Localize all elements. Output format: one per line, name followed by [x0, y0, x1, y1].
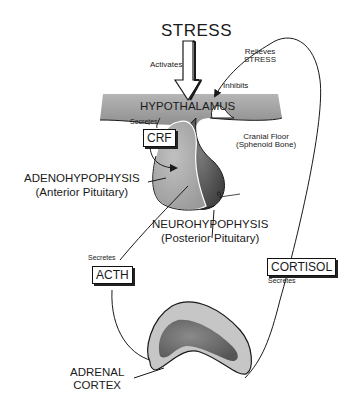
crf-box: CRF [143, 129, 176, 147]
adeno-line2: (Anterior Pituitary) [24, 187, 140, 199]
stress-arrow-icon [175, 41, 201, 100]
cortisol-box: CORTISOL [267, 258, 336, 276]
activates-label: Activates [150, 61, 182, 69]
acth-box: ACTH [92, 266, 133, 284]
secretes-crf-label: Secretes [130, 118, 158, 125]
neurohypophysis-label: NEUROHYPOPHYSIS (Posterior Pituitary) [152, 219, 268, 244]
secretes-cortisol-label: Secretes [268, 277, 296, 284]
cranial-floor-label: Cranial Floor (Sphenoid Bone) [236, 133, 296, 149]
adrenal-cortex-label: ADRENAL CORTEX [70, 367, 124, 391]
relieves-line2: STRESS [244, 56, 276, 64]
cranial-line2: (Sphenoid Bone) [236, 141, 296, 149]
secretes-acth-label: Secretes [88, 254, 116, 261]
inhibits-label: Inhibits [223, 82, 248, 90]
adeno-line1: ADENOHYPOPHYSIS [24, 173, 140, 185]
adenohypophysis-label: ADENOHYPOPHYSIS (Anterior Pituitary) [24, 173, 140, 198]
adrenal-line2: CORTEX [70, 380, 124, 392]
stress-title: STRESS [161, 22, 232, 39]
relieves-stress-label: Relieves STRESS [244, 48, 276, 64]
hypothalamus-label: HYPOTHALAMUS [140, 101, 235, 113]
neuro-line1: NEUROHYPOPHYSIS [152, 219, 268, 231]
adrenal-line1: ADRENAL [70, 367, 124, 379]
neuro-line2: (Posterior Pituitary) [152, 233, 268, 245]
